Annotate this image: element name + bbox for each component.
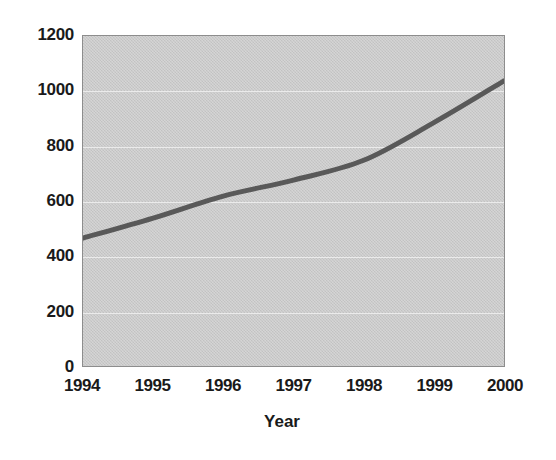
y-tick-label: 1000 xyxy=(0,80,74,100)
x-tick-label: 1994 xyxy=(47,376,117,396)
series-layer xyxy=(83,36,504,366)
y-tick-label: 400 xyxy=(0,246,74,266)
x-tick-label: 1996 xyxy=(188,376,258,396)
y-tick-label: 200 xyxy=(0,302,74,322)
line-series-path xyxy=(83,81,504,238)
y-tick-label: 600 xyxy=(0,191,74,211)
plot-area xyxy=(82,35,505,367)
y-tick-label: 800 xyxy=(0,136,74,156)
x-tick-label: 2000 xyxy=(470,376,540,396)
x-tick-label: 1995 xyxy=(118,376,188,396)
x-axis-title-text: Year xyxy=(264,412,300,432)
x-tick-label: 1997 xyxy=(259,376,329,396)
y-tick-label: 1200 xyxy=(0,25,74,45)
y-tick-label: 0 xyxy=(0,357,74,377)
x-tick-label: 1999 xyxy=(400,376,470,396)
x-tick-label: 1998 xyxy=(329,376,399,396)
x-axis-title: Year xyxy=(0,412,556,432)
chart-figure: 020040060080010001200 199419951996199719… xyxy=(0,0,556,460)
